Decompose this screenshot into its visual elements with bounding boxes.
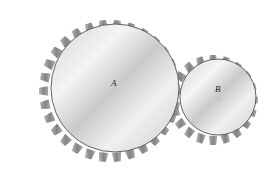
gear-tooth bbox=[44, 112, 56, 123]
gear-b-label: B bbox=[215, 84, 221, 94]
gear-a-label: A bbox=[111, 78, 117, 88]
gears-diagram bbox=[0, 0, 279, 180]
gear-tooth bbox=[40, 73, 51, 83]
gear-tooth bbox=[184, 127, 195, 139]
gear-b-hub bbox=[217, 98, 221, 102]
gear-tooth bbox=[112, 152, 121, 162]
gear-tooth bbox=[85, 148, 95, 159]
gear-tooth bbox=[51, 124, 63, 136]
gear-tooth bbox=[196, 133, 206, 144]
gear-tooth bbox=[39, 86, 48, 95]
gear-tooth bbox=[40, 99, 51, 109]
gear-a-face bbox=[51, 24, 179, 152]
gear-a-hub bbox=[113, 89, 117, 93]
gear-tooth bbox=[209, 136, 217, 145]
gear-tooth bbox=[60, 134, 72, 146]
gear-tooth bbox=[175, 118, 187, 129]
gear-tooth bbox=[99, 152, 108, 162]
gear-tooth bbox=[72, 142, 84, 154]
gear-b-face bbox=[180, 59, 256, 135]
